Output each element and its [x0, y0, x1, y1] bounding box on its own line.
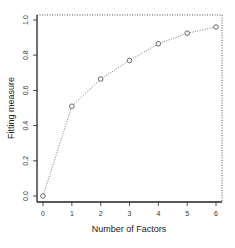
- y-tick-label: 1.0: [22, 15, 29, 25]
- data-point: [98, 77, 103, 82]
- data-point: [156, 41, 161, 46]
- data-point: [185, 31, 190, 36]
- x-tick-label: 4: [156, 210, 160, 217]
- x-tick-label: 3: [128, 210, 132, 217]
- data-point: [70, 104, 75, 109]
- fitting-measure-chart: 0.00.20.40.60.81.0 0123456 Number of Fac…: [0, 0, 235, 248]
- plot-area: 0.00.20.40.60.81.0 0123456: [22, 15, 222, 217]
- x-tick-label: 1: [70, 210, 74, 217]
- y-tick-label: 0.2: [22, 156, 29, 166]
- x-tick-label: 0: [41, 210, 45, 217]
- x-tick-label: 5: [185, 210, 189, 217]
- x-axis-ticks: 0123456: [41, 202, 218, 217]
- y-axis-title: Fitting measure: [6, 77, 16, 139]
- series-line: [43, 27, 216, 196]
- x-tick-label: 2: [99, 210, 103, 217]
- x-axis-title: Number of Factors: [92, 224, 167, 234]
- y-tick-label: 0.4: [22, 121, 29, 131]
- y-tick-label: 0.0: [22, 191, 29, 201]
- data-point: [214, 25, 219, 30]
- data-point: [127, 58, 132, 63]
- y-tick-label: 0.6: [22, 85, 29, 95]
- y-axis-ticks: 0.00.20.40.60.81.0: [22, 15, 37, 201]
- y-tick-label: 0.8: [22, 50, 29, 60]
- data-point: [41, 194, 46, 199]
- x-tick-label: 6: [214, 210, 218, 217]
- data-point-markers: [41, 25, 219, 199]
